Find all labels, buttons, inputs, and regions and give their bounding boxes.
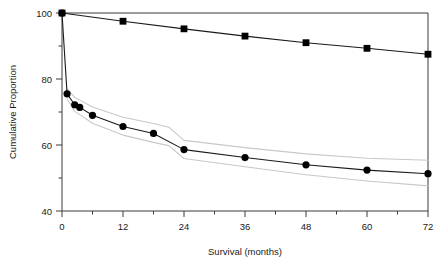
data-point-circle xyxy=(76,104,83,111)
data-point-square xyxy=(120,18,127,25)
data-point-circle xyxy=(58,9,65,16)
y-tick-label: 80 xyxy=(41,74,52,85)
x-tick-label: 36 xyxy=(240,221,251,232)
data-point-circle xyxy=(302,161,309,168)
data-point-square xyxy=(242,33,249,40)
data-point-square xyxy=(303,39,310,46)
data-point-circle xyxy=(180,146,187,153)
data-point-circle xyxy=(241,154,248,161)
x-tick-label: 0 xyxy=(59,221,64,232)
data-point-circle xyxy=(89,112,96,119)
data-point-square xyxy=(364,45,371,52)
y-tick-label: 100 xyxy=(36,8,52,19)
data-point-circle xyxy=(424,170,431,177)
x-tick-label: 72 xyxy=(423,221,434,232)
y-tick-label: 60 xyxy=(41,140,52,151)
data-point-square xyxy=(425,51,432,58)
data-point-circle xyxy=(119,123,126,130)
x-tick-label: 24 xyxy=(179,221,190,232)
figure-background xyxy=(0,0,446,263)
x-tick-label: 60 xyxy=(362,221,373,232)
data-point-square xyxy=(181,25,188,32)
x-tick-label: 48 xyxy=(301,221,312,232)
x-tick-label: 12 xyxy=(118,221,129,232)
data-point-circle xyxy=(63,90,70,97)
y-tick-label: 40 xyxy=(41,206,52,217)
survival-plot-svg: 406080100 0122436486072 Survival (months… xyxy=(0,0,446,263)
data-point-circle xyxy=(363,166,370,173)
survival-chart-figure: 406080100 0122436486072 Survival (months… xyxy=(0,0,446,263)
x-axis-title: Survival (months) xyxy=(208,246,282,257)
data-point-circle xyxy=(150,130,157,137)
y-axis-title: Cumulative Proportion xyxy=(7,65,18,159)
